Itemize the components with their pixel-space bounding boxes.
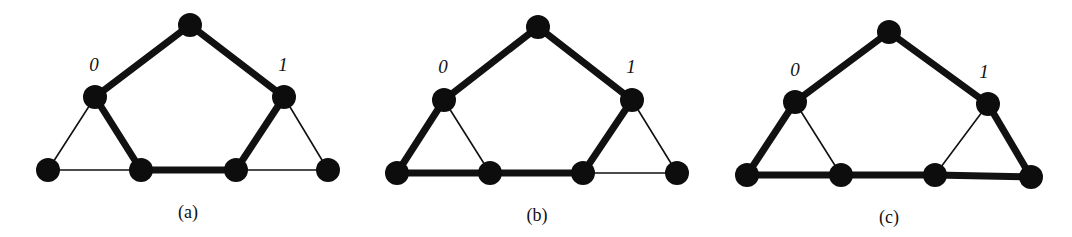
graph-figure: 01(a)01(b)01(c)	[0, 0, 1072, 237]
bold-edge-top-v0	[95, 25, 190, 97]
vertex-top	[526, 15, 550, 39]
vertex-label-v0: 0	[438, 56, 448, 77]
panel-a: 01(a)	[36, 13, 340, 223]
figure-canvas: 01(a)01(b)01(c)	[0, 0, 1072, 237]
bold-edge-b3-b4	[935, 175, 1031, 177]
panel-caption-c: (c)	[879, 207, 899, 228]
vertex-v1	[976, 92, 1000, 116]
vertex-b1	[735, 163, 759, 187]
bold-edge-v0-b1	[747, 102, 795, 175]
thin-edge-v1-b3	[935, 104, 988, 175]
bold-edge-top-v0	[444, 27, 538, 100]
vertex-b3	[571, 161, 595, 185]
panel-c: 01(c)	[735, 20, 1043, 228]
vertex-label-v0: 0	[89, 54, 99, 75]
thin-edge-v0-b1	[48, 97, 95, 170]
vertex-b2	[129, 158, 153, 182]
vertex-b1	[36, 158, 60, 182]
bold-edge-top-v1	[538, 27, 632, 100]
thin-edge-v1-b4	[632, 100, 677, 173]
vertex-top	[178, 13, 202, 37]
vertex-v0	[83, 85, 107, 109]
panel-caption-b: (b)	[527, 205, 548, 226]
panel-caption-a: (a)	[178, 202, 198, 223]
vertex-b1	[385, 161, 409, 185]
vertex-v0	[783, 90, 807, 114]
vertex-b3	[224, 158, 248, 182]
thin-edge-v0-b2	[795, 102, 841, 175]
panel-b: 01(b)	[385, 15, 689, 226]
bold-edge-v0-b2	[95, 97, 141, 170]
bold-edge-b3-v1	[236, 97, 284, 170]
vertex-v0	[432, 88, 456, 112]
vertex-b4	[1019, 165, 1043, 189]
vertex-v1	[620, 88, 644, 112]
vertex-v1	[272, 85, 296, 109]
vertex-top	[877, 20, 901, 44]
vertex-label-v1: 1	[626, 56, 636, 77]
vertex-b2	[829, 163, 853, 187]
thin-edge-v1-b4	[284, 97, 328, 170]
bold-edge-top-v1	[889, 32, 988, 104]
vertex-b2	[478, 161, 502, 185]
vertex-label-v1: 1	[979, 61, 989, 82]
vertex-b3	[923, 163, 947, 187]
bold-edge-top-v0	[795, 32, 889, 102]
vertex-b4	[665, 161, 689, 185]
vertex-b4	[316, 158, 340, 182]
vertex-label-v1: 1	[278, 54, 288, 75]
vertex-label-v0: 0	[790, 59, 800, 80]
bold-edge-v0-b1	[397, 100, 444, 173]
bold-edge-top-v1	[190, 25, 284, 97]
thin-edge-v0-b2	[444, 100, 490, 173]
bold-edge-b3-v1	[583, 100, 632, 173]
bold-edge-v1-b4	[988, 104, 1031, 177]
